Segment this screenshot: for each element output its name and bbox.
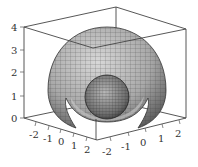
z-tick-label: 4 [11, 22, 17, 33]
x-tick-label: -1 [43, 133, 53, 144]
x-axis: -2 -1 0 1 2 [29, 122, 90, 155]
y-tick-label: 2 [175, 128, 181, 139]
x-tick-label: 1 [71, 140, 77, 151]
x-tick-label: 2 [84, 144, 90, 155]
y-tick-label: 1 [158, 133, 164, 144]
z-tick-label: 3 [11, 45, 17, 56]
z-axis: 0 1 2 3 4 [11, 22, 24, 124]
y-tick-label: -1 [121, 141, 131, 152]
3d-plot: 0 1 2 3 4 -2 -1 0 1 2 -2 -1 0 1 2 [0, 0, 198, 167]
z-tick-label: 2 [11, 67, 17, 78]
inner-sphere [85, 75, 129, 119]
y-tick-label: 0 [140, 137, 146, 148]
z-tick-label: 0 [11, 113, 17, 124]
x-tick-label: 0 [58, 136, 64, 147]
x-tick-label: -2 [29, 129, 39, 140]
y-tick-label: -2 [102, 146, 112, 157]
z-tick-label: 1 [11, 91, 17, 102]
